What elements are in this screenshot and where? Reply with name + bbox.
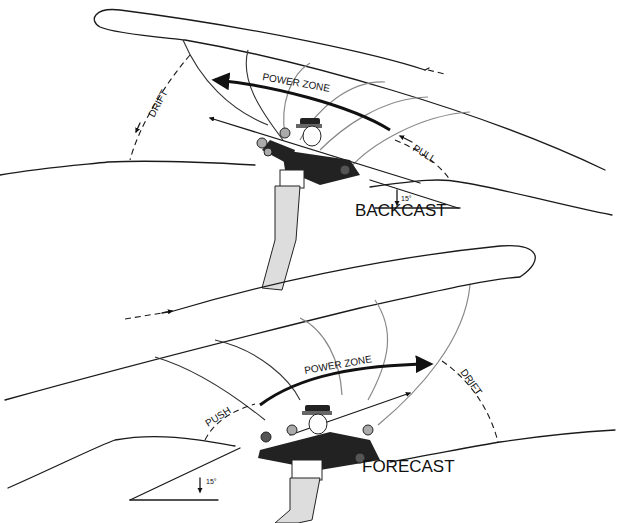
forecast-push-label: PUSH	[203, 405, 232, 429]
forecast-section: POWER ZONE DRIFT PUSH 15° FORECAST	[5, 246, 615, 523]
backcast-section: POWER ZONE DRIFT PULL 15° BACKCAST BACKC…	[0, 10, 612, 290]
forecast-lower-line	[8, 437, 235, 488]
power-zone-arrow	[260, 364, 430, 405]
backcast-lower-line	[0, 161, 255, 175]
backcast-pull-label: PULL	[411, 142, 438, 165]
rod-position	[246, 50, 283, 140]
rod-position	[378, 285, 470, 425]
backcast-drift-label: DRIFT	[146, 88, 170, 119]
rod-position	[300, 318, 342, 395]
forecast-title: FORECAST	[362, 457, 455, 476]
forecast-drift-label: DRIFT	[458, 367, 484, 397]
rod-position	[215, 340, 300, 400]
rod-position	[350, 112, 470, 168]
backcast-title-text: BACKCAST	[355, 201, 447, 220]
casting-diagram: POWER ZONE DRIFT PULL 15° BACKCAST BACKC…	[0, 0, 618, 523]
angler-figure-backcast	[257, 118, 360, 290]
forecast-angle-label: 15°	[206, 478, 217, 485]
rod-position	[368, 300, 388, 400]
backcast-power-zone-label: POWER ZONE	[262, 71, 332, 94]
rod-position	[155, 357, 265, 420]
